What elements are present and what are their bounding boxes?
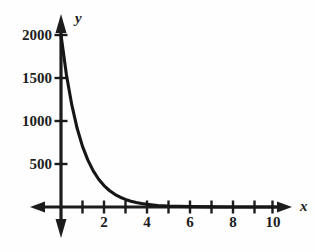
- y-tick-label-1000: 1000: [8, 114, 52, 129]
- x-axis-right-arrow-icon: [277, 202, 292, 213]
- data-curve: [61, 35, 276, 207]
- y-tick-label-1500: 1500: [8, 71, 52, 86]
- chart-figure: 2000 1500 1000 500 2 4 6 8 10 y x: [0, 0, 315, 252]
- x-tick-label-6: 6: [176, 215, 204, 230]
- y-tick-label-500: 500: [8, 157, 52, 172]
- y-axis-up-arrow-icon: [56, 14, 67, 33]
- x-axis-left-arrow-icon: [30, 202, 45, 213]
- y-axis-label: y: [75, 11, 82, 26]
- y-tick-label-2000: 2000: [8, 28, 52, 43]
- y-axis-down-arrow-icon: [56, 219, 67, 238]
- x-tick-label-2: 2: [90, 215, 118, 230]
- x-tick-label-4: 4: [133, 215, 161, 230]
- x-tick-label-10: 10: [258, 215, 288, 230]
- x-axis-label: x: [300, 199, 308, 214]
- x-tick-label-8: 8: [219, 215, 247, 230]
